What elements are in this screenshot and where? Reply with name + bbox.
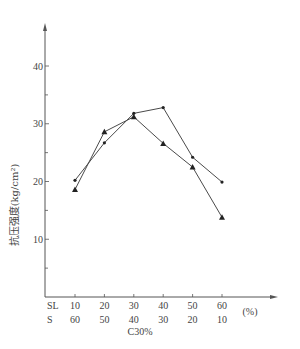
x-axis-title: C30% — [128, 326, 153, 337]
x-axis-arrow-icon — [270, 295, 278, 299]
triangle-marker-icon — [131, 114, 137, 120]
x-tick-label: 60 — [217, 300, 227, 311]
circle-marker-icon — [103, 141, 106, 144]
x-row-label-sl: SL — [47, 300, 59, 311]
x-tick-label: 40 — [129, 314, 139, 325]
triangle-marker-icon — [219, 214, 225, 220]
y-axis-title-wrap: 抗压强度(kg/cm²) — [3, 150, 23, 260]
y-axis-arrow-icon — [43, 23, 47, 31]
x-tick-label: 30 — [129, 300, 139, 311]
x-tick-label-rows: SL102030405060S605040302010 — [47, 300, 227, 325]
x-tick-label: 20 — [188, 314, 198, 325]
x-tick-label: 60 — [70, 314, 80, 325]
series-group — [72, 106, 225, 220]
triangle-marker-icon — [101, 129, 107, 135]
circle-marker-icon — [220, 180, 223, 183]
y-ticks: 10203040 — [33, 61, 49, 269]
series-triangle — [72, 114, 225, 220]
y-axis-title: 抗压强度(kg/cm²) — [6, 164, 21, 247]
triangle-marker-icon — [72, 187, 78, 193]
x-tick-label: 50 — [188, 300, 198, 311]
y-tick-label: 30 — [33, 118, 43, 129]
series-circle — [73, 106, 223, 184]
series-line — [75, 108, 222, 182]
x-tick-label: 50 — [99, 314, 109, 325]
x-tick-label: 40 — [158, 300, 168, 311]
x-row-label-s: S — [47, 314, 53, 325]
y-tick-label: 20 — [33, 176, 43, 187]
circle-marker-icon — [162, 106, 165, 109]
line-chart: 10203040 SL102030405060S605040302010 (%)… — [0, 0, 300, 349]
x-unit-label: (%) — [243, 306, 258, 318]
x-tick-label: 30 — [158, 314, 168, 325]
circle-marker-icon — [191, 156, 194, 159]
circle-marker-icon — [73, 179, 76, 182]
series-line — [75, 117, 222, 217]
x-tick-label: 20 — [99, 300, 109, 311]
y-tick-label: 40 — [33, 61, 43, 72]
y-tick-label: 10 — [33, 234, 43, 245]
axes — [43, 23, 278, 299]
x-tick-label: 10 — [70, 300, 80, 311]
x-tick-label: 10 — [217, 314, 227, 325]
